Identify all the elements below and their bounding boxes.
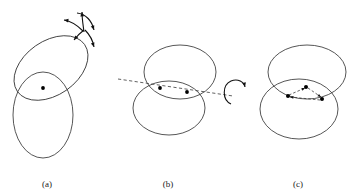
panel-a-motion-arrows xyxy=(64,12,94,47)
figure-svg: (a) (b) (c) xyxy=(0,0,358,195)
arrowheads-layer xyxy=(64,12,322,99)
panel-c-triangle-dot-right xyxy=(320,97,324,101)
panel-b-axis-dot-right xyxy=(185,90,189,94)
panel-c-triangle-dot-left xyxy=(286,94,290,98)
panel-c-lower-ellipse xyxy=(260,79,338,139)
panel-b-lower-ellipse xyxy=(133,81,205,135)
rotation-arrow-icon xyxy=(224,80,245,104)
panel-b: (b) xyxy=(118,45,245,189)
panel-b-label: (b) xyxy=(163,179,174,189)
panel-a-upright-ellipse xyxy=(13,72,73,158)
figure-container: (a) (b) (c) xyxy=(0,0,358,195)
panel-b-axis-dot-left xyxy=(158,86,162,90)
arrow-down-right-icon-head xyxy=(91,42,96,47)
panel-c: (c) xyxy=(260,45,346,189)
triangle-link-right-to-left-head xyxy=(290,96,294,99)
panel-c-upper-ellipse xyxy=(268,45,346,99)
panel-b-upper-ellipse xyxy=(144,45,216,99)
panel-a-label: (a) xyxy=(42,179,52,189)
panel-c-label: (c) xyxy=(293,179,303,189)
panel-a-tilted-ellipse xyxy=(2,22,100,113)
panel-a-center-dot xyxy=(41,86,45,90)
panel-a: (a) xyxy=(2,12,100,189)
arrow-sweep-icon-head xyxy=(91,25,96,30)
